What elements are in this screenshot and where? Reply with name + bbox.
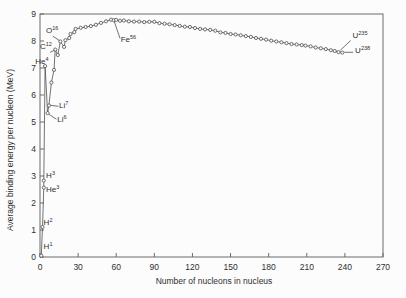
- nuclide-label-li6: Li6: [57, 114, 66, 124]
- data-point: [285, 42, 288, 45]
- data-point: [329, 49, 332, 52]
- data-point: [122, 19, 125, 22]
- data-point: [89, 25, 92, 28]
- data-point: [193, 26, 196, 29]
- data-point: [265, 38, 268, 41]
- data-point: [118, 19, 121, 22]
- data-point: [50, 81, 53, 84]
- data-point: [239, 34, 242, 37]
- data-point: [42, 179, 45, 182]
- x-tick-label: 240: [338, 262, 352, 272]
- annotation-leader-o16: [53, 36, 60, 40]
- data-point: [79, 26, 82, 29]
- data-point: [319, 47, 322, 50]
- data-point: [56, 53, 59, 56]
- data-point: [173, 24, 176, 27]
- nuclide-label-u238: U238: [355, 45, 370, 55]
- nuclide-label-li7: Li7: [59, 100, 68, 110]
- y-tick-label: 5: [31, 117, 36, 127]
- data-point: [290, 42, 293, 45]
- x-tick-label: 60: [111, 262, 121, 272]
- data-point: [46, 112, 49, 115]
- data-point: [178, 24, 181, 27]
- data-point: [127, 20, 130, 23]
- data-point: [244, 35, 247, 38]
- annotation-leader-li6: [49, 114, 56, 119]
- data-point: [148, 20, 151, 23]
- data-point: [168, 23, 171, 26]
- annotation-leader-c12: [50, 50, 54, 52]
- x-tick-label: 120: [185, 262, 199, 272]
- nuclide-label-u235: U235: [353, 30, 368, 40]
- data-point: [94, 23, 97, 26]
- annotation-leader-u235: [340, 41, 350, 51]
- data-point: [74, 27, 77, 30]
- data-point: [314, 46, 317, 49]
- data-point: [219, 31, 222, 34]
- binding-energy-chart: 03060901201501802102402700123456789H1H2H…: [0, 0, 406, 298]
- nuclide-label-h1: H1: [44, 241, 53, 251]
- y-tick-label: 4: [31, 144, 36, 154]
- nuclide-label-h2: H2: [44, 217, 53, 227]
- y-tick-label: 9: [31, 9, 36, 19]
- data-point: [199, 27, 202, 30]
- x-tick-label: 150: [223, 262, 237, 272]
- x-tick-label: 0: [38, 262, 43, 272]
- data-point: [63, 45, 66, 48]
- data-point: [254, 36, 257, 39]
- data-point: [324, 48, 327, 51]
- data-point: [188, 25, 191, 28]
- data-point: [163, 22, 166, 25]
- data-point: [295, 43, 298, 46]
- y-tick-label: 0: [31, 252, 36, 262]
- data-point: [158, 22, 161, 25]
- data-point: [333, 49, 336, 52]
- nuclide-label-he3: He3: [46, 184, 59, 194]
- data-point: [52, 68, 55, 71]
- data-point: [341, 51, 344, 54]
- data-point: [105, 20, 108, 23]
- data-point: [249, 35, 252, 38]
- data-point: [300, 44, 303, 47]
- x-tick-label: 90: [150, 262, 160, 272]
- data-point: [280, 41, 283, 44]
- y-tick-label: 2: [31, 198, 36, 208]
- data-point: [229, 32, 232, 35]
- y-tick-label: 8: [31, 36, 36, 46]
- data-point: [68, 36, 71, 39]
- data-point: [138, 20, 141, 23]
- nuclide-label-c12: C12: [40, 41, 52, 51]
- nuclide-label-fe56: Fe56: [121, 34, 136, 44]
- y-tick-label: 6: [31, 90, 36, 100]
- y-tick-label: 3: [31, 171, 36, 181]
- x-tick-label: 270: [376, 262, 390, 272]
- data-point: [47, 104, 50, 107]
- data-point: [224, 31, 227, 34]
- data-point: [209, 28, 212, 31]
- annotation-leader-li7: [51, 105, 59, 106]
- plot-layer: 03060901201501802102402700123456789H1H2H…: [31, 9, 390, 272]
- data-point: [115, 18, 118, 21]
- data-point: [214, 29, 217, 32]
- data-point: [84, 25, 87, 28]
- x-axis-title: Number of nucleons in nucleus: [156, 276, 273, 286]
- nuclide-label-o16: O16: [46, 25, 58, 35]
- data-point: [153, 20, 156, 23]
- nuclide-label-h3: H3: [46, 170, 55, 180]
- nuclide-label-he4: He4: [35, 56, 48, 66]
- data-point: [143, 21, 146, 24]
- data-point: [132, 20, 135, 23]
- binding-energy-figure: 03060901201501802102402700123456789H1H2H…: [0, 0, 406, 298]
- data-point: [270, 39, 273, 42]
- data-point: [64, 39, 67, 42]
- data-point: [304, 44, 307, 47]
- data-point: [309, 45, 312, 48]
- curve-line: [41, 20, 342, 256]
- y-tick-label: 1: [31, 225, 36, 235]
- annotation-leader-fe56: [114, 22, 120, 39]
- y-axis-title: Average binding energy per nucleon (MeV): [5, 69, 15, 231]
- data-point: [204, 28, 207, 31]
- data-point: [259, 37, 262, 40]
- x-tick-label: 30: [73, 262, 83, 272]
- x-tick-label: 180: [262, 262, 276, 272]
